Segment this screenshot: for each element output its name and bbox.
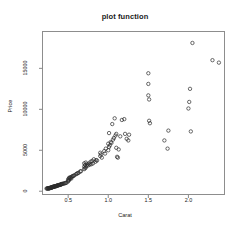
plot-frame <box>43 32 225 195</box>
data-point <box>188 87 191 90</box>
y-tick-label: 15000 <box>21 55 29 81</box>
y-axis-title: Price <box>7 83 13 129</box>
data-point <box>147 98 150 101</box>
data-point <box>107 131 110 134</box>
y-tick-label: 5000 <box>21 137 29 163</box>
data-point <box>187 107 190 110</box>
data-point <box>119 135 122 138</box>
data-point <box>123 132 126 135</box>
data-point <box>111 122 114 125</box>
y-tick-label: 10000 <box>21 96 29 122</box>
data-point <box>127 133 130 136</box>
x-tick-label: 2.0 <box>176 197 200 203</box>
scatter-points <box>45 41 221 190</box>
data-point <box>167 129 170 132</box>
data-point <box>211 58 214 61</box>
plot-figure: plot function 0.51.01.52.0 0500010000150… <box>0 0 250 234</box>
x-axis-title: Carat <box>0 212 250 218</box>
data-point <box>116 156 119 159</box>
x-tick-label: 1.5 <box>136 197 160 203</box>
data-point <box>191 41 194 44</box>
x-tick-label: 0.5 <box>56 197 80 203</box>
plot-canvas <box>0 0 250 234</box>
data-point <box>163 139 166 142</box>
data-point <box>147 72 150 75</box>
data-point <box>166 147 169 150</box>
data-point <box>188 100 191 103</box>
data-point <box>113 117 116 120</box>
data-point <box>147 82 150 85</box>
x-axis-ticks <box>68 195 188 199</box>
y-axis-ticks <box>39 68 43 191</box>
y-tick-label: 0 <box>21 178 29 204</box>
data-point <box>217 61 220 64</box>
data-point <box>189 130 192 133</box>
data-point <box>147 94 150 97</box>
x-tick-label: 1.0 <box>96 197 120 203</box>
